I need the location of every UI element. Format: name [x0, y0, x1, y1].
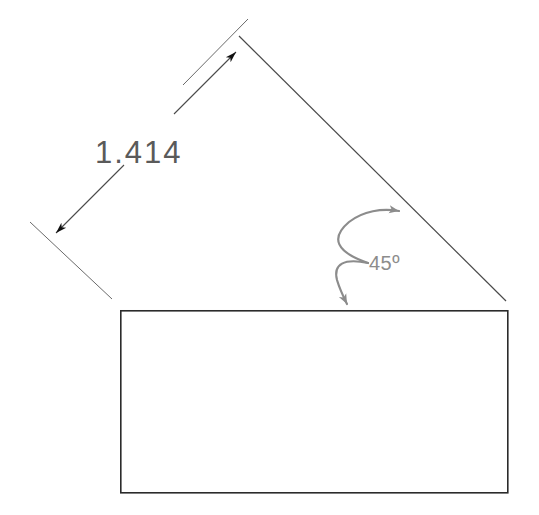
dimension-line-lower-segment: [56, 165, 124, 233]
technical-drawing-svg: 1.414 45º: [0, 0, 539, 515]
length-dimension-label: 1.414: [95, 135, 183, 170]
angle-arc-lower-half: [336, 261, 368, 304]
dimension-line-upper-segment: [174, 52, 236, 114]
angle-dimension-label: 45º: [369, 252, 400, 274]
lower-extension-line: [30, 222, 112, 299]
upper-extension-line: [183, 19, 248, 85]
base-rectangle: [121, 311, 508, 493]
drawing-canvas: 1.414 45º: [0, 0, 539, 515]
